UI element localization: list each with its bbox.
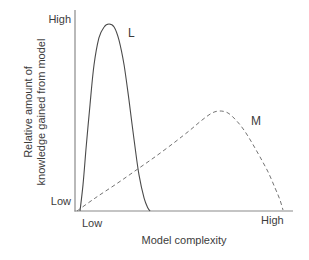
y-tick-high: High	[44, 13, 71, 26]
x-tick-low: Low	[82, 217, 102, 230]
x-axis-title: Model complexity	[75, 234, 293, 247]
series-m-label: M	[251, 115, 261, 128]
x-tick-high: High	[261, 214, 284, 227]
y-tick-low: Low	[44, 195, 71, 208]
y-axis-title-line2: knowledge gained from model	[35, 22, 48, 202]
curve-l	[80, 24, 150, 211]
knowledge-vs-complexity-chart: High Low Low High Model complexity Relat…	[0, 0, 309, 260]
series-l-label: L	[128, 27, 135, 40]
y-axis-title: Relative amount of knowledge gained from…	[22, 22, 48, 202]
y-axis-title-line1: Relative amount of	[22, 22, 35, 202]
